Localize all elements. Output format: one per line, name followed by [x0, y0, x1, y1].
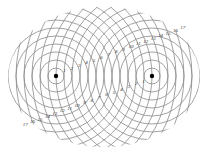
path-label: 15: [166, 31, 172, 36]
path-label: 8: [115, 49, 118, 54]
path-label: 2: [71, 66, 74, 71]
wavefront-ring: [40, 0, 207, 153]
wavefront-ring: [32, 0, 207, 153]
wavefront-ring: [80, 4, 207, 148]
interference-diagram: 1234567891011121314151617123456789101112…: [0, 0, 207, 153]
path-label: 17: [23, 122, 29, 127]
path-label: 1: [142, 79, 145, 84]
wavefront-ring: [72, 0, 207, 153]
wavefront-ring: [0, 0, 152, 153]
path-label: 14: [158, 33, 164, 38]
right-source-point: [150, 74, 154, 78]
path-label: 12: [143, 39, 149, 44]
path-label: 13: [52, 111, 58, 116]
path-label: 17: [180, 25, 186, 30]
path-label: 1: [63, 68, 66, 73]
path-label: 16: [30, 119, 36, 124]
path-label: 6: [100, 55, 103, 60]
path-label: 5: [93, 58, 96, 63]
wavefront-ring: [88, 12, 207, 140]
path-label: 10: [129, 44, 135, 49]
path-label: 16: [173, 28, 179, 33]
path-label: 10: [75, 103, 81, 108]
path-label: 4: [85, 60, 88, 65]
wavefront-ring: [0, 0, 168, 153]
path-label: 11: [136, 41, 141, 46]
path-label: 11: [67, 106, 72, 111]
left-source-point: [54, 74, 58, 78]
path-label: 12: [60, 108, 66, 113]
wavefront-ring: [0, 12, 120, 140]
path-label: 14: [45, 114, 51, 119]
path-label: 15: [38, 117, 44, 122]
path-label: 13: [151, 36, 157, 41]
right-wavefronts: [16, 0, 207, 153]
diagram-canvas: 1234567891011121314151617123456789101112…: [0, 0, 207, 153]
path-label: 9: [122, 47, 125, 52]
